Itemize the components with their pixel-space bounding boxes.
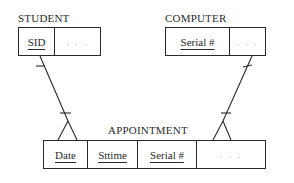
computer-appointment-relationship (213, 56, 252, 140)
crows-foot-icon (58, 121, 68, 140)
relationship-lines (0, 0, 294, 183)
student-appointment-relationship (36, 56, 77, 140)
crows-foot-icon (213, 121, 223, 140)
